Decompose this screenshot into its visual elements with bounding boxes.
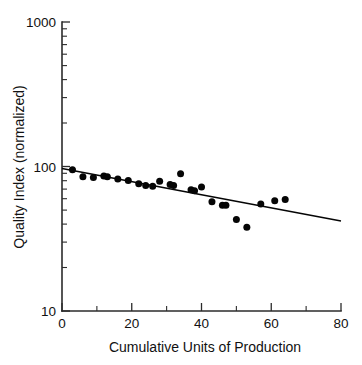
x-ticklabel-20: 20 bbox=[124, 316, 139, 331]
data-point bbox=[142, 182, 149, 189]
data-point bbox=[135, 180, 142, 187]
x-axis-title: Cumulative Units of Production bbox=[109, 339, 301, 355]
y-axis-title: Quality Index (normalized) bbox=[11, 85, 27, 248]
data-point bbox=[125, 177, 132, 184]
data-point bbox=[243, 224, 250, 231]
x-ticklabel-80: 80 bbox=[333, 316, 348, 331]
x-ticklabel-40: 40 bbox=[194, 316, 209, 331]
data-point bbox=[198, 184, 205, 191]
x-ticklabel-0: 0 bbox=[58, 316, 66, 331]
data-point bbox=[208, 198, 215, 205]
data-point bbox=[191, 187, 198, 194]
data-point bbox=[177, 170, 184, 177]
data-point bbox=[69, 166, 76, 173]
quality-index-scatter-chart: 1000 100 10 0 20 40 60 80 Cumulative Uni… bbox=[0, 0, 362, 365]
data-point bbox=[149, 183, 156, 190]
data-point bbox=[271, 197, 278, 204]
data-point bbox=[233, 216, 240, 223]
data-point bbox=[222, 202, 229, 209]
data-point bbox=[79, 173, 86, 180]
x-ticklabel-60: 60 bbox=[264, 316, 279, 331]
data-point bbox=[90, 174, 97, 181]
data-point bbox=[282, 196, 289, 203]
data-point bbox=[114, 175, 121, 182]
y-ticklabel-bottom: 10 bbox=[41, 304, 56, 319]
data-point bbox=[104, 173, 111, 180]
data-point bbox=[170, 182, 177, 189]
y-ticklabel-mid: 100 bbox=[33, 160, 56, 175]
y-ticklabel-top: 1000 bbox=[26, 15, 56, 30]
data-point bbox=[257, 201, 264, 208]
data-point bbox=[156, 178, 163, 185]
